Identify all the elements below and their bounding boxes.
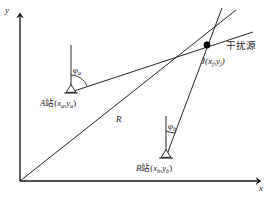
station-a-label: A站(xa,ya)	[40, 99, 76, 108]
jammer-paren-close: )	[222, 56, 225, 66]
phi-b-subscript: b	[173, 125, 176, 132]
jammer-name-label: 干扰源	[226, 41, 257, 51]
bearing-ray-b	[166, 8, 222, 157]
range-line-R	[20, 10, 236, 181]
station-b-coord-x-sub: b	[157, 167, 160, 174]
station-a-cjk: 站	[45, 98, 54, 108]
station-b-marker	[159, 150, 173, 159]
x-axis-label: x	[259, 184, 263, 193]
jammer-coord-x-sub: j	[212, 60, 214, 67]
figure-canvas: y x R φa φb 干扰源 J(xj,yj) A站(xa,ya) B站(xb…	[0, 0, 271, 198]
range-label-R: R	[116, 115, 122, 124]
station-a-paren-close: )	[73, 98, 76, 108]
phi-a-subscript: a	[78, 69, 81, 76]
station-b-label: B站(xb,yb)	[136, 164, 172, 173]
angle-label-phi-b: φb	[168, 122, 176, 131]
station-a-coord-x-sub: a	[61, 102, 64, 109]
station-a-marker	[64, 85, 78, 94]
angle-arc-phi-a	[71, 75, 87, 86]
jammer-coord-label: J(xj,yj)	[201, 57, 225, 66]
angle-label-phi-a: φa	[73, 66, 81, 75]
station-a-coord-y-sub: a	[70, 102, 73, 109]
y-axis-label: y	[5, 6, 9, 15]
station-b-paren-close: )	[169, 163, 172, 173]
jammer-coord-y-sub: j	[220, 60, 222, 67]
jammer-point-marker	[204, 42, 211, 49]
station-b-coord-y-sub: b	[166, 167, 169, 174]
station-b-cjk: 站	[141, 163, 150, 173]
